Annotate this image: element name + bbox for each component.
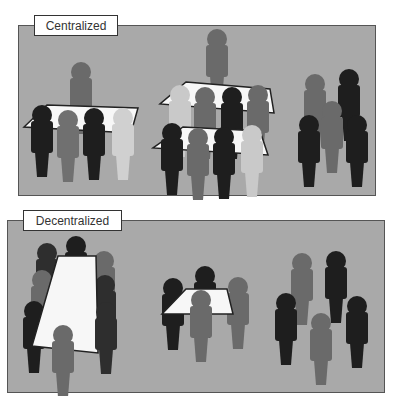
decentralized-right-group [275,251,368,385]
centralized-middle-group [153,29,274,200]
centralized-right-group [298,69,368,187]
decentralized-left-group [23,236,117,396]
people-diagram [0,0,399,396]
decentralized-middle-group [162,266,249,362]
centralized-left-group [24,62,138,182]
